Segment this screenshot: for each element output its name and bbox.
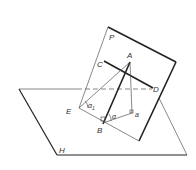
label-alpha1: α1 [88, 102, 95, 111]
plane-p-top-edge [108, 27, 176, 62]
diagram-canvas: P A C D E B a α1 α H [0, 0, 196, 170]
angle-arc-alpha [109, 114, 111, 121]
plane-p-left-edge [79, 27, 108, 108]
plane-h-right-edge [159, 98, 187, 155]
label-alpha: α [112, 113, 117, 120]
right-angle-marker-a [130, 110, 133, 113]
plane-h-left-edge [19, 89, 57, 155]
label-c: C [97, 60, 103, 69]
label-d: D [153, 85, 159, 94]
plane-p [79, 27, 176, 141]
label-a-proj: a [135, 111, 139, 118]
line-ae [79, 62, 130, 108]
plane-p-right-edge [139, 62, 176, 141]
label-h: H [59, 146, 65, 155]
line-ab [103, 62, 130, 124]
label-e: E [66, 107, 72, 116]
label-p: P [109, 33, 115, 42]
line-aa [130, 62, 132, 113]
label-b: B [97, 126, 103, 135]
label-a: A [126, 51, 132, 60]
